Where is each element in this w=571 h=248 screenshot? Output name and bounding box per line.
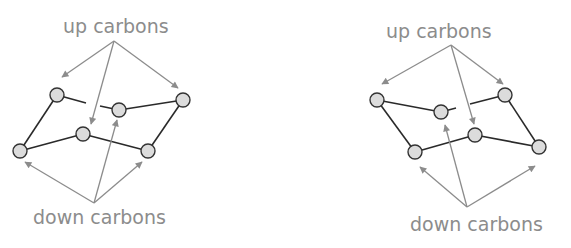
arrow-icon [25,162,94,203]
carbon-atom [76,127,90,141]
carbon-atom [13,144,27,158]
arrow-icon [451,45,503,84]
chair-left: up carbons down ca [13,15,190,228]
arrow-icon [420,167,467,207]
arrow-icon [467,166,535,207]
carbon-atom [468,128,482,142]
cyclohexane-chair-diagrams: up carbons down ca [0,0,571,248]
bond [119,100,183,110]
carbon-atom [141,144,155,158]
bond [148,100,183,151]
carbon-atom [112,103,126,117]
carbon-atoms [13,88,190,158]
arrow-icon [114,41,178,88]
arrow-icon [91,41,114,124]
arrow-icon [94,120,117,203]
arrow-icon [445,125,467,207]
arrow-icon [62,41,114,77]
chair-right: up carbons down ca [370,20,546,235]
carbon-atoms [370,88,546,159]
bonds [20,95,183,151]
arrow-icon [451,45,474,124]
bond [475,135,539,147]
bond [377,100,415,152]
carbon-atom [176,93,190,107]
bond [83,134,148,151]
carbon-atom [50,88,64,102]
down-carbons-label: down carbons [33,206,166,228]
carbon-atom [434,105,448,119]
up-carbons-label: up carbons [63,15,169,37]
bond [377,100,441,112]
bond [505,95,539,147]
arrow-icon [94,162,142,203]
arrow-icon [382,45,451,84]
bond [415,135,475,152]
bonds [377,95,539,152]
down-carbons-label: down carbons [410,213,543,235]
up-carbons-label: up carbons [386,20,492,42]
carbon-atom [370,93,384,107]
carbon-atom [498,88,512,102]
carbon-atom [408,145,422,159]
carbon-atom [532,140,546,154]
